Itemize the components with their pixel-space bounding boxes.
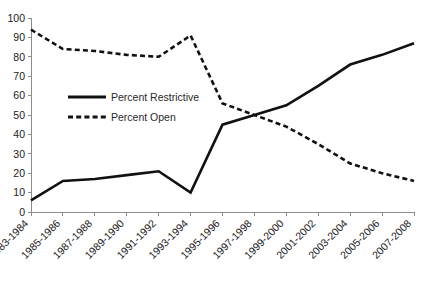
- chart-legend: Percent RestrictivePercent Open: [68, 91, 199, 123]
- y-tick-label: 50: [13, 109, 25, 121]
- y-tick-label: 100: [7, 12, 25, 24]
- plot-area: [31, 30, 414, 201]
- chart-canvas: 0102030405060708090100 1983-19841985-198…: [0, 0, 425, 288]
- y-tick-label: 60: [13, 89, 25, 101]
- legend-label-1: Percent Restrictive: [111, 91, 199, 103]
- x-axis: 1983-19841985-19861987-19881989-19901991…: [0, 212, 414, 261]
- series-line-2: [31, 30, 414, 181]
- y-tick-label: 70: [13, 70, 25, 82]
- y-tick-label: 0: [19, 206, 25, 218]
- y-tick-label: 10: [13, 186, 25, 198]
- y-tick-label: 30: [13, 148, 25, 160]
- y-tick-label: 20: [13, 167, 25, 179]
- y-axis: 0102030405060708090100: [7, 12, 31, 218]
- series-line-1: [31, 43, 414, 200]
- line-chart: 0102030405060708090100 1983-19841985-198…: [0, 0, 425, 288]
- y-tick-label: 80: [13, 51, 25, 63]
- y-tick-label: 40: [13, 128, 25, 140]
- legend-label-2: Percent Open: [111, 111, 176, 123]
- y-tick-label: 90: [13, 31, 25, 43]
